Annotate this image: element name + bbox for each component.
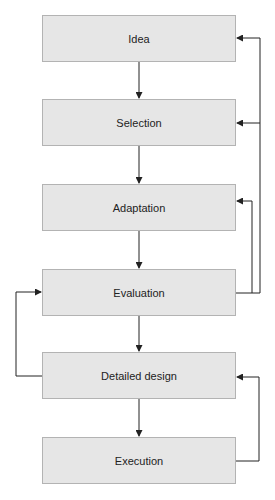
feedback-execution-detailed <box>236 377 259 461</box>
connector-lines <box>0 0 275 500</box>
feedback-detailed-evaluation <box>16 292 42 376</box>
feedback-evaluation-outer <box>236 38 260 293</box>
